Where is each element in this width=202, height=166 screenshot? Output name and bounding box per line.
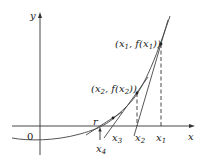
point-x1-label: (x1, f(x1)): [115, 38, 161, 51]
x-axis-arrow-icon: [189, 124, 195, 128]
origin-label: 0: [27, 131, 33, 142]
x4-label: x4: [96, 143, 106, 156]
newton-method-diagram: y x 0 r x1 x2 x3 x4 (x1, f(x1)) (x2, f(x…: [0, 0, 202, 166]
axes: [12, 12, 195, 155]
y-axis-arrow-icon: [38, 12, 42, 18]
x3-label: x3: [112, 132, 123, 145]
x2-label: x2: [135, 132, 146, 145]
function-curve: [12, 16, 170, 140]
x1-label: x1: [156, 132, 166, 145]
root-label: r: [93, 116, 99, 127]
point-x2-label: (x2, f(x2)): [91, 83, 137, 96]
y-axis-label: y: [29, 10, 36, 21]
point-x3: [112, 117, 115, 120]
x-axis-label: x: [188, 131, 194, 142]
